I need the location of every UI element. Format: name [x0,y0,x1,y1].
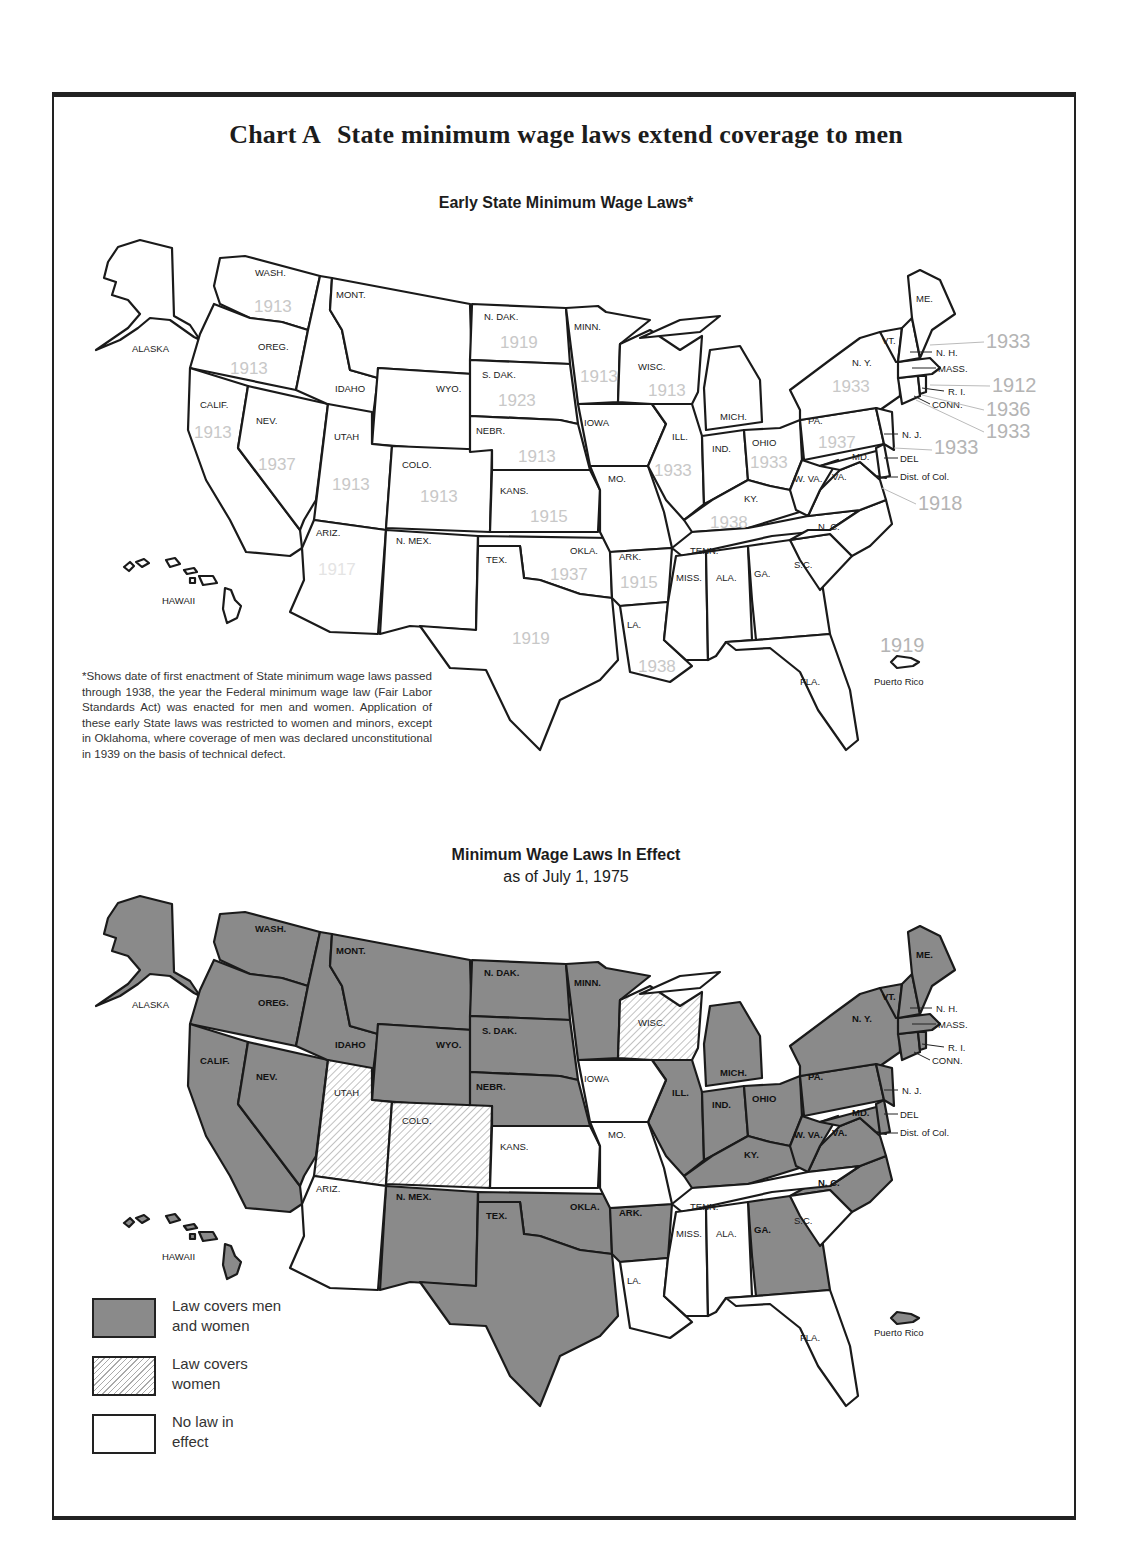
legend-item-men-and-women: Law covers menand women [92,1298,392,1348]
year-utah: 1913 [332,475,370,494]
label-ill: ILL. [672,431,688,442]
year-ky: 1938 [710,513,748,532]
year-ny: 1933 [832,377,870,396]
year-ark: 1915 [620,573,658,592]
legend-label-3a: No law in [172,1413,234,1430]
legend-swatch-hatched [92,1356,156,1396]
label-mo: MO. [608,473,626,484]
year-colo: 1913 [420,487,458,506]
label-del: DEL [900,453,918,464]
footnote: *Shows date of first enactment of State … [82,668,432,762]
year-ohio: 1933 [750,453,788,472]
label-idaho: IDAHO [335,383,365,394]
year-nebr: 1913 [518,447,556,466]
label-ga: GA. [754,568,770,579]
year-dc: 1918 [918,492,963,514]
label-ny: N. Y. [852,357,872,368]
legend-label-1b: and women [172,1317,250,1334]
label-va: VA. [832,471,847,482]
label-colo: COLO. [402,459,432,470]
map2-subtitle: as of July 1, 1975 [0,868,1132,886]
label-hawaii: HAWAII [162,595,195,606]
puerto-rico [891,656,919,668]
year-minn: 1913 [580,367,618,386]
year-wisc: 1913 [648,381,686,400]
label-nmex: N. MEX. [396,535,431,546]
legend-label-2a: Law covers [172,1355,248,1372]
state-hawaii [124,558,241,623]
label-fla: FLA. [800,676,820,687]
label-wisc: WISC. [638,361,665,372]
year-okla: 1937 [550,565,588,584]
leader-line [894,448,932,450]
label-alaska: ALASKA [132,343,170,354]
year-ri: 1936 [986,398,1031,420]
label-puerto-rico: Puerto Rico [874,676,924,687]
label-ndak: N. DAK. [484,311,518,322]
year-mass: 1912 [992,374,1037,396]
legend-label-3b: effect [172,1433,208,1450]
legend-item-women: Law coverswomen [92,1356,392,1406]
year-nh: 1933 [986,330,1031,352]
label-vt: VT. [882,335,896,346]
legend-item-no-law: No law ineffect [92,1414,392,1464]
label-mich: MICH. [720,411,747,422]
year-ariz: 1917 [318,560,356,579]
label-iowa: IOWA [584,417,610,428]
label-mont: MONT. [336,289,366,300]
label-sdak: S. DAK. [482,369,516,380]
label-minn: MINN. [574,321,601,332]
year-wash: 1913 [254,297,292,316]
label-mass: MASS. [938,363,968,374]
state-alaska [96,240,200,350]
label-kans: KANS. [500,485,529,496]
label-tex: TEX. [486,554,507,565]
year-pr: 1919 [880,634,925,656]
year-nj: 1933 [934,436,979,458]
label-sc: S.C. [794,559,812,570]
year-tex: 1919 [512,629,550,648]
label-nev: NEV. [256,415,277,426]
state-ri [918,376,926,394]
legend-swatch-dark [92,1298,156,1338]
legend-label-1a: Law covers men [172,1297,281,1314]
label-nj: N. J. [902,429,922,440]
label-nebr: NEBR. [476,425,505,436]
label-ri: R. I. [948,386,965,397]
label-oreg: OREG. [258,341,289,352]
label-wyo: WYO. [436,383,461,394]
year-pa: 1937 [818,433,856,452]
label-me: ME. [916,293,933,304]
map2-title: Minimum Wage Laws In Effect [0,846,1132,864]
label-utah: UTAH [334,431,359,442]
label-ohio: OHIO [752,437,776,448]
label-tenn: TENN. [690,545,719,556]
label-ind: IND. [712,443,731,454]
label-ariz: ARIZ. [316,527,340,538]
year-conn: 1933 [986,420,1031,442]
year-kans: 1915 [530,507,568,526]
label-miss: MISS. [676,572,702,583]
label-md: MD. [852,451,869,462]
leader-line [930,385,990,386]
legend-label-2b: women [172,1375,220,1392]
label-calif: CALIF. [200,399,229,410]
label-dc: Dist. of Col. [900,471,949,482]
year-nev: 1937 [258,455,296,474]
label-ky: KY. [744,493,758,504]
label-pa: PA. [808,415,823,426]
label-ark: ARK. [619,551,641,562]
year-oreg: 1913 [230,359,268,378]
label-okla: OKLA. [570,545,598,556]
label-wva: W. VA. [794,473,822,484]
year-la: 1938 [638,657,676,676]
leader-line [930,342,984,345]
state-wyo [372,368,472,452]
state-fla [726,634,858,750]
label-nh: N. H. [936,347,958,358]
label-wash: WASH. [255,267,286,278]
year-calif: 1913 [194,423,232,442]
legend-swatch-empty [92,1414,156,1454]
year-ill: 1933 [654,461,692,480]
label-la: LA. [627,619,641,630]
